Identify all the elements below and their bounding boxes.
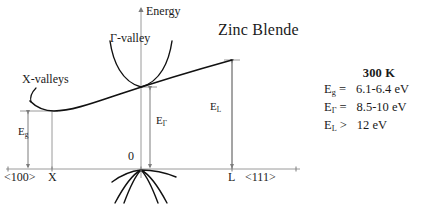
- legend-temperature: 300 K: [318, 66, 440, 81]
- figure-title: Zinc Blende: [218, 22, 299, 38]
- axis-left-direction-label: <100>: [4, 171, 36, 183]
- legend-el-value: 12 eV: [357, 118, 387, 132]
- gamma-valley-label: Γ-valley: [110, 32, 150, 44]
- eg-symbol: E: [18, 125, 25, 137]
- x-valleys-leader-line: [31, 88, 36, 102]
- eg-subscript: g: [25, 131, 29, 139]
- egamma-arrow-label: EΓ: [156, 115, 167, 128]
- el-symbol: E: [210, 100, 217, 112]
- legend-egamma-relation: =: [340, 100, 357, 115]
- legend-egamma-value: 8.5-10 eV: [357, 100, 407, 114]
- axis-right-direction-label: <111>: [245, 171, 276, 183]
- legend-eg-value: 6.1-6.4 eV: [356, 82, 409, 96]
- origin-label: 0: [128, 150, 134, 162]
- band-structure-figure: Energy Zinc Blende Γ-valley X-valleys 0 …: [0, 0, 445, 204]
- eg-arrow-label: Eg: [18, 126, 28, 139]
- axis-x-point-label: X: [48, 171, 57, 183]
- legend-row-egamma: EΓ =8.5-10 eV: [318, 100, 440, 118]
- values-legend: 300 K Eg =6.1-6.4 eV EΓ =8.5-10 eV EL >1…: [318, 66, 440, 135]
- legend-el-symbol: E: [324, 118, 332, 132]
- el-arrow-label: EL: [210, 101, 221, 114]
- axis-l-point-label: L: [228, 171, 235, 183]
- egamma-symbol: E: [156, 114, 163, 126]
- legend-egamma-subscript: Γ: [332, 106, 337, 115]
- legend-row-eg: Eg =6.1-6.4 eV: [318, 82, 440, 100]
- legend-el-subscript: L: [332, 123, 337, 132]
- legend-eg-subscript: g: [332, 88, 336, 97]
- legend-eg-relation: =: [339, 82, 356, 97]
- energy-axis-label: Energy: [146, 5, 180, 17]
- legend-egamma-symbol: E: [324, 100, 332, 114]
- legend-eg-symbol: E: [324, 82, 332, 96]
- legend-row-el: EL >12 eV: [318, 118, 440, 136]
- energy-axis-arrowhead: [138, 7, 143, 12]
- egamma-subscript: Γ: [163, 120, 167, 128]
- legend-el-relation: >: [340, 118, 357, 133]
- el-subscript: L: [217, 106, 221, 114]
- x-valleys-label: X-valleys: [22, 73, 69, 85]
